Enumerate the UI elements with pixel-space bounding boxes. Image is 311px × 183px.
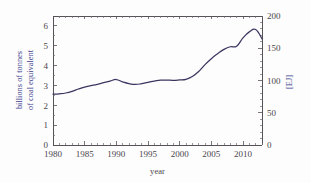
x-tick-label: 1995 bbox=[139, 149, 158, 159]
x-axis-tick-labels: 1980198519901995200020052010 bbox=[44, 149, 253, 159]
y-tick-label: 1 bbox=[44, 120, 49, 130]
x-tick-label: 2000 bbox=[171, 149, 190, 159]
y-axis-major-ticks bbox=[53, 26, 57, 145]
x-tick-label: 2005 bbox=[202, 149, 221, 159]
y-tick-label: 5 bbox=[44, 41, 49, 51]
y-tick-label: 0 bbox=[44, 140, 49, 150]
y-tick-label: 3 bbox=[44, 81, 49, 91]
x-axis-major-ticks bbox=[53, 16, 243, 145]
y2-axis-title: [EJ] bbox=[285, 75, 294, 89]
y2-tick-label: 0 bbox=[267, 140, 272, 150]
y2-tick-label: 100 bbox=[267, 76, 281, 86]
x-tick-label: 1980 bbox=[44, 149, 63, 159]
data-series-line bbox=[53, 29, 262, 94]
y2-tick-label: 150 bbox=[267, 43, 281, 53]
y2-tick-label: 200 bbox=[267, 11, 281, 21]
y-axis-title-line1: billions of tonnes bbox=[15, 51, 24, 109]
y-tick-label: 4 bbox=[44, 61, 49, 71]
x-tick-label: 1985 bbox=[76, 149, 95, 159]
y2-tick-label: 50 bbox=[267, 108, 277, 118]
x-tick-label: 2010 bbox=[234, 149, 253, 159]
y-tick-label: 6 bbox=[44, 21, 49, 31]
y2-axis-tick-labels: 050100150200 bbox=[267, 11, 281, 150]
y-tick-label: 2 bbox=[44, 101, 49, 111]
y-axis-title-line2: of coal equivalent bbox=[26, 49, 35, 110]
x-tick-label: 1990 bbox=[107, 149, 126, 159]
chart-figure: 1980198519901995200020052010 0123456 050… bbox=[0, 0, 311, 183]
y-axis-tick-labels: 0123456 bbox=[44, 21, 49, 150]
x-axis-title: year bbox=[150, 166, 165, 176]
coal-consumption-line-chart: 1980198519901995200020052010 0123456 050… bbox=[0, 0, 311, 183]
